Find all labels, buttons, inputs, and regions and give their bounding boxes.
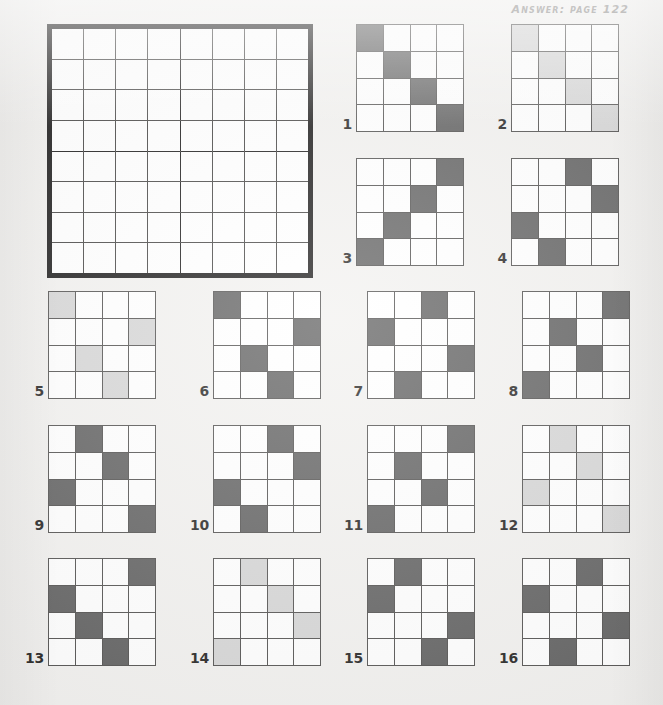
main-grid-cell-r2-c2[interactable]	[116, 90, 147, 120]
puzzle-cell-r2-c1-empty[interactable]	[241, 613, 267, 639]
main-grid-cell-r5-c7[interactable]	[277, 182, 308, 212]
puzzle-cell-r3-c0-empty[interactable]	[357, 105, 383, 131]
puzzle-cell-r1-c2-empty[interactable]	[577, 319, 603, 345]
puzzle-cell-r1-c3-empty[interactable]	[437, 186, 463, 212]
puzzle-grid[interactable]	[213, 291, 321, 399]
puzzle-cell-r1-c3-empty[interactable]	[448, 453, 474, 479]
puzzle-cell-r1-c1-empty[interactable]	[550, 586, 576, 612]
puzzle-cell-r2-c0-empty[interactable]	[49, 613, 75, 639]
puzzle-cell-r3-c2-empty[interactable]	[422, 506, 448, 532]
puzzle-cell-r2-c0-empty[interactable]	[49, 346, 75, 372]
puzzle-cell-r1-c3-filled[interactable]	[592, 186, 618, 212]
puzzle-cell-r2-c1-filled[interactable]	[241, 346, 267, 372]
puzzle-cell-r2-c2-empty[interactable]	[422, 613, 448, 639]
puzzle-cell-r2-c3-empty[interactable]	[294, 346, 320, 372]
puzzle-cell-r0-c2-empty[interactable]	[577, 426, 603, 452]
puzzle-cell-r2-c2-empty[interactable]	[422, 346, 448, 372]
puzzle-cell-r3-c3-filled[interactable]	[603, 506, 629, 532]
puzzle-cell-r1-c0-empty[interactable]	[523, 319, 549, 345]
puzzle-cell-r1-c3-filled[interactable]	[294, 453, 320, 479]
puzzle-cell-r1-c2-filled[interactable]	[103, 453, 129, 479]
puzzle-cell-r1-c2-empty[interactable]	[422, 319, 448, 345]
puzzle-cell-r2-c1-empty[interactable]	[384, 79, 410, 105]
puzzle-cell-r3-c3-empty[interactable]	[129, 372, 155, 398]
puzzle-cell-r2-c3-empty[interactable]	[437, 79, 463, 105]
puzzle-cell-r3-c0-empty[interactable]	[523, 506, 549, 532]
puzzle-cell-r3-c1-empty[interactable]	[550, 506, 576, 532]
puzzle-cell-r2-c1-empty[interactable]	[395, 346, 421, 372]
puzzle-cell-r0-c2-filled[interactable]	[268, 426, 294, 452]
puzzle-cell-r0-c3-empty[interactable]	[592, 159, 618, 185]
puzzle-cell-r0-c1-empty[interactable]	[550, 559, 576, 585]
main-grid-cell-r7-c4[interactable]	[181, 243, 212, 273]
puzzle-cell-r0-c1-empty[interactable]	[550, 292, 576, 318]
puzzle-cell-r1-c0-filled[interactable]	[523, 586, 549, 612]
puzzle-cell-r0-c1-empty[interactable]	[539, 25, 565, 51]
puzzle-cell-r1-c2-filled[interactable]	[268, 586, 294, 612]
puzzle-cell-r1-c0-empty[interactable]	[49, 319, 75, 345]
puzzle-cell-r3-c2-filled[interactable]	[268, 372, 294, 398]
puzzle-cell-r1-c2-filled[interactable]	[411, 186, 437, 212]
puzzle-cell-r3-c3-empty[interactable]	[592, 239, 618, 265]
puzzle-cell-r0-c1-empty[interactable]	[76, 559, 102, 585]
puzzle-cell-r2-c1-empty[interactable]	[539, 79, 565, 105]
main-grid-cell-r3-c0[interactable]	[52, 121, 83, 151]
main-grid-cell-r6-c0[interactable]	[52, 213, 83, 243]
main-grid-cell-r0-c0[interactable]	[52, 29, 83, 59]
main-grid-cells[interactable]	[52, 29, 308, 273]
puzzle-cell-r0-c1-empty[interactable]	[395, 292, 421, 318]
puzzle-cell-r3-c0-filled[interactable]	[214, 639, 240, 665]
puzzle-cell-r1-c2-empty[interactable]	[411, 52, 437, 78]
main-grid-cell-r1-c0[interactable]	[52, 60, 83, 90]
puzzle-cell-r2-c1-empty[interactable]	[76, 480, 102, 506]
puzzle-cell-r3-c3-filled[interactable]	[129, 506, 155, 532]
main-grid-cell-r1-c6[interactable]	[245, 60, 276, 90]
puzzle-cell-r0-c3-empty[interactable]	[603, 559, 629, 585]
puzzle-cell-r0-c1-filled[interactable]	[76, 426, 102, 452]
puzzle-cell-r3-c3-filled[interactable]	[592, 105, 618, 131]
main-grid-cell-r1-c4[interactable]	[181, 60, 212, 90]
puzzle-cell-r3-c1-empty[interactable]	[395, 639, 421, 665]
puzzle-cell-r1-c3-empty[interactable]	[294, 586, 320, 612]
main-grid-cell-r6-c6[interactable]	[245, 213, 276, 243]
puzzle-cell-r3-c3-empty[interactable]	[448, 639, 474, 665]
main-grid-cell-r7-c6[interactable]	[245, 243, 276, 273]
puzzle-cell-r2-c0-filled[interactable]	[512, 213, 538, 239]
puzzle-cell-r0-c3-empty[interactable]	[448, 559, 474, 585]
puzzle-cell-r1-c2-empty[interactable]	[577, 586, 603, 612]
puzzle-cell-r1-c3-empty[interactable]	[603, 586, 629, 612]
puzzle-cell-r1-c0-empty[interactable]	[357, 52, 383, 78]
main-grid-cell-r0-c4[interactable]	[181, 29, 212, 59]
puzzle-cell-r3-c3-empty[interactable]	[448, 372, 474, 398]
puzzle-cell-r2-c0-filled[interactable]	[523, 480, 549, 506]
puzzle-cell-r2-c2-filled[interactable]	[577, 346, 603, 372]
main-grid-cell-r4-c7[interactable]	[277, 152, 308, 182]
puzzle-cell-r3-c1-empty[interactable]	[241, 372, 267, 398]
puzzle-cell-r1-c0-empty[interactable]	[214, 319, 240, 345]
puzzle-cell-r2-c3-empty[interactable]	[448, 480, 474, 506]
puzzle-cell-r3-c1-filled[interactable]	[395, 372, 421, 398]
puzzle-cell-r2-c2-empty[interactable]	[268, 613, 294, 639]
puzzle-cell-r2-c0-filled[interactable]	[214, 480, 240, 506]
puzzle-cell-r3-c0-empty[interactable]	[49, 372, 75, 398]
main-grid-cell-r7-c3[interactable]	[148, 243, 179, 273]
puzzle-cell-r2-c1-filled[interactable]	[76, 613, 102, 639]
puzzle-cell-r3-c0-filled[interactable]	[368, 506, 394, 532]
main-grid-cell-r7-c5[interactable]	[213, 243, 244, 273]
puzzle-cell-r0-c2-filled[interactable]	[577, 559, 603, 585]
puzzle-cell-r2-c3-empty[interactable]	[603, 346, 629, 372]
puzzle-cell-r2-c3-filled[interactable]	[603, 613, 629, 639]
puzzle-cell-r2-c1-empty[interactable]	[550, 613, 576, 639]
puzzle-cell-r1-c1-empty[interactable]	[76, 453, 102, 479]
puzzle-cell-r2-c1-filled[interactable]	[384, 213, 410, 239]
puzzle-cell-r0-c0-empty[interactable]	[523, 559, 549, 585]
puzzle-cell-r3-c1-filled[interactable]	[241, 506, 267, 532]
puzzle-cell-r1-c0-empty[interactable]	[512, 186, 538, 212]
puzzle-cell-r0-c2-empty[interactable]	[422, 559, 448, 585]
puzzle-cell-r2-c2-filled[interactable]	[411, 79, 437, 105]
main-grid-cell-r5-c4[interactable]	[181, 182, 212, 212]
puzzle-cell-r1-c1-empty[interactable]	[241, 453, 267, 479]
puzzle-cell-r3-c0-empty[interactable]	[368, 372, 394, 398]
main-grid-cell-r7-c0[interactable]	[52, 243, 83, 273]
puzzle-cell-r3-c2-empty[interactable]	[422, 372, 448, 398]
